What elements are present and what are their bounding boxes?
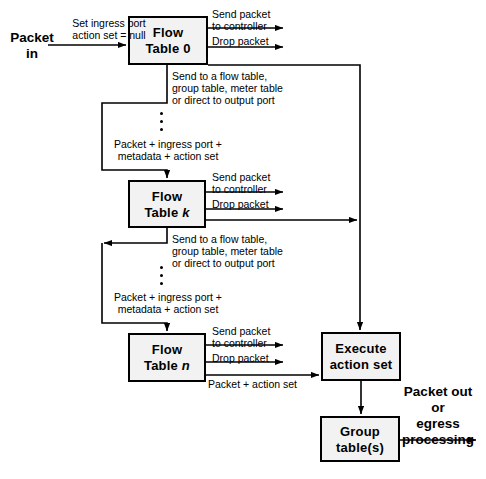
label-send-packet-controller-k: Send packet to controller xyxy=(212,171,270,195)
flow-table-n-line1: Flow xyxy=(152,342,182,357)
label-send-to-flow-table-0: Send to a flow table, group table, meter… xyxy=(172,70,283,106)
group-line2: table(s) xyxy=(336,440,384,455)
ellipsis-dots-upper xyxy=(160,112,163,131)
node-flow-table-n[interactable]: Flow Table n xyxy=(128,333,206,382)
execute-line1: Execute xyxy=(335,341,386,356)
label-send-packet-controller-n: Send packet to controller xyxy=(212,325,270,349)
flow-table-n-line2: Table n xyxy=(144,358,190,373)
flow-table-k-line2: Table k xyxy=(144,205,189,220)
wire-ftk-to-ftn xyxy=(102,243,167,331)
label-packet-out: Packet out or egress processing xyxy=(392,384,484,448)
wire-ftk-feedback-left xyxy=(104,228,167,243)
node-group-tables[interactable]: Group table(s) xyxy=(320,416,400,462)
flow-table-0-line2: Table 0 xyxy=(145,41,190,56)
label-packet-in: Packet in xyxy=(4,30,60,62)
label-drop-packet-0: Drop packet xyxy=(212,35,269,47)
label-drop-packet-k: Drop packet xyxy=(212,198,269,210)
group-line1: Group xyxy=(340,424,380,439)
ellipsis-dots-lower xyxy=(160,266,163,285)
label-send-packet-controller-0: Send packet to controller xyxy=(212,8,270,32)
node-flow-table-k[interactable]: Flow Table k xyxy=(128,180,206,228)
execute-line2: action set xyxy=(330,357,393,372)
label-packet-metadata-0: Packet + ingress port + metadata + actio… xyxy=(100,138,236,162)
label-packet-metadata-k: Packet + ingress port + metadata + actio… xyxy=(100,291,236,315)
flow-table-k-line1: Flow xyxy=(152,189,182,204)
flow-table-0-line1: Flow xyxy=(153,25,183,40)
label-send-to-flow-table-k: Send to a flow table, group table, meter… xyxy=(172,233,283,269)
label-packet-action-set-n: Packet + action set xyxy=(208,378,297,390)
openflow-pipeline-diagram: Flow Table 0 Flow Table k Flow Table n E… xyxy=(0,0,486,479)
label-drop-packet-n: Drop packet xyxy=(212,352,269,364)
node-execute-action-set[interactable]: Execute action set xyxy=(321,332,401,381)
label-set-ingress-port: Set ingress port action set = null xyxy=(66,17,152,41)
